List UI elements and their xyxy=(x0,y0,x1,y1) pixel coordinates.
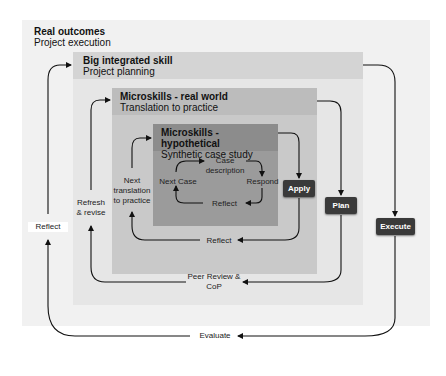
inner-reflect-label: Reflect xyxy=(202,199,247,209)
next-translation-label: Next translation to practice xyxy=(112,176,152,206)
execute-button[interactable]: Execute xyxy=(376,218,415,235)
respond-label: Respond xyxy=(240,177,285,187)
arrows-layer xyxy=(0,0,446,376)
case-description-label: Case description xyxy=(205,156,245,176)
apply-button[interactable]: Apply xyxy=(283,180,315,197)
outer-reflect-label: Reflect xyxy=(28,222,68,232)
peer-review-label: Peer Review & CoP xyxy=(185,272,243,292)
reflect-apply-label: Reflect xyxy=(198,236,240,246)
plan-button[interactable]: Plan xyxy=(325,197,357,214)
evaluate-label: Evaluate xyxy=(192,331,238,341)
next-case-label: Next Case xyxy=(157,177,199,187)
refresh-revise-label: Refresh & revise xyxy=(75,198,107,218)
